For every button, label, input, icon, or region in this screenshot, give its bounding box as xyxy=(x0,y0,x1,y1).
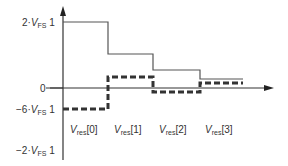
y-label-neg2: −2·VFS 1 xyxy=(16,145,55,157)
y-label-neg6: −6·VFS 1 xyxy=(16,104,55,116)
x-label-3: Vres[3] xyxy=(205,124,233,136)
x-label-0: Vres[0] xyxy=(70,124,98,136)
dashed-residue-line xyxy=(63,77,243,109)
residue-diagram: 2·VFS 1 0 −6·VFS 1 −2·VFS 1 Vres[0] Vres… xyxy=(0,0,288,166)
x-axis-arrow-icon xyxy=(264,85,274,91)
x-label-2: Vres[2] xyxy=(159,124,187,136)
solid-staircase-line xyxy=(63,22,243,79)
y-label-zero: 0 xyxy=(40,83,46,94)
y-axis-arrow-icon xyxy=(60,6,66,16)
x-label-1: Vres[1] xyxy=(114,124,142,136)
y-label-top: 2·VFS 1 xyxy=(22,17,55,29)
